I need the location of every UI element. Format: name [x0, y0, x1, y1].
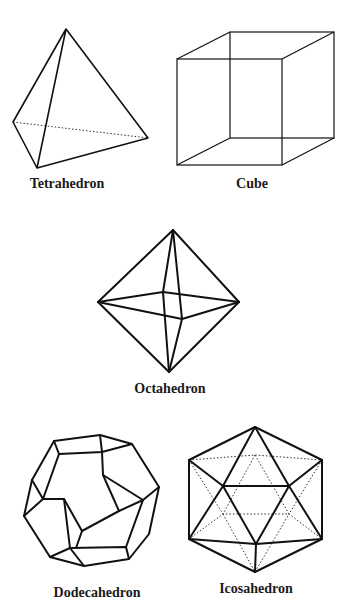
cube-label: Cube [236, 176, 268, 192]
platonic-solids-figure [0, 0, 354, 616]
octahedron-drawing [98, 230, 239, 372]
dodecahedron-drawing [24, 435, 159, 566]
dodecahedron-label: Dodecahedron [54, 585, 141, 601]
octahedron-label: Octahedron [134, 381, 205, 397]
cube-drawing [177, 32, 334, 165]
icosahedron-label: Icosahedron [219, 581, 293, 597]
tetrahedron-label: Tetrahedron [30, 176, 105, 192]
icosahedron-drawing [189, 427, 322, 572]
tetrahedron-drawing [13, 29, 148, 168]
